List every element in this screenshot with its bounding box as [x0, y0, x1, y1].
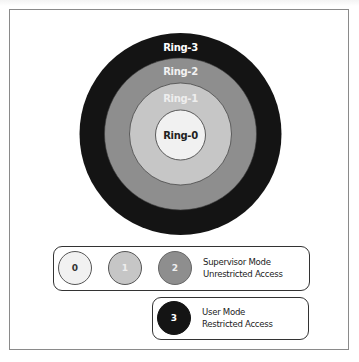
- level-1-label: 1: [122, 263, 128, 273]
- ring-3-label: Ring-3: [163, 42, 198, 53]
- supervisor-mode-title: Supervisor Mode: [203, 256, 283, 268]
- supervisor-mode-legend: 0 1 2 Supervisor Mode Unrestricted Acces…: [53, 246, 310, 291]
- level-2-label: 2: [172, 263, 178, 273]
- user-mode-legend: 3 User Mode Restricted Access: [152, 297, 309, 340]
- supervisor-mode-text: Supervisor Mode Unrestricted Access: [203, 256, 283, 279]
- user-mode-title: User Mode: [202, 306, 273, 318]
- user-mode-text: User Mode Restricted Access: [202, 306, 273, 329]
- ring-0-label: Ring-0: [163, 130, 198, 141]
- level-0-dot: 0: [58, 251, 92, 285]
- ring-1-label: Ring-1: [163, 93, 198, 104]
- level-0-label: 0: [72, 263, 78, 273]
- ring-2-label: Ring-2: [163, 66, 198, 77]
- level-3-dot: 3: [157, 301, 191, 335]
- level-1-dot: 1: [108, 251, 142, 285]
- user-mode-subtitle: Restricted Access: [202, 318, 273, 330]
- supervisor-mode-subtitle: Unrestricted Access: [203, 268, 283, 280]
- level-2-dot: 2: [158, 251, 192, 285]
- level-3-label: 3: [171, 313, 177, 323]
